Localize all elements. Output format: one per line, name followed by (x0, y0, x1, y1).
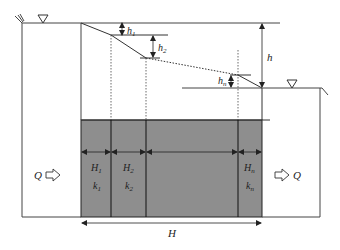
hydraulic-grade-line (81, 23, 262, 88)
flow-in: Q (34, 169, 60, 181)
flow-out-label: Q (293, 169, 301, 181)
soil-block (81, 120, 270, 217)
downstream-container (262, 88, 328, 217)
upstream-container (15, 14, 81, 217)
flow-in-label: Q (34, 169, 42, 181)
head-loss-1-dimension: h1 (122, 23, 136, 38)
head-loss-n-label: hn (218, 75, 227, 88)
water-level-downstream-icon (287, 80, 297, 88)
flow-arrow-in-icon (46, 169, 60, 181)
flow-arrow-out-icon (275, 169, 289, 181)
head-loss-1-label: h1 (127, 25, 136, 38)
total-head-dimension: h (262, 24, 273, 120)
total-length-label: H (167, 227, 177, 239)
total-length-dimension: H (82, 223, 261, 239)
head-loss-2-dimension: h2 (153, 36, 167, 57)
head-loss-2-label: h2 (158, 42, 167, 55)
head-loss-n-dimension: hn (218, 75, 231, 88)
water-level-upstream-icon (38, 15, 48, 23)
seepage-diagram: h1 h2 hn h H1 k1 H2 k2 Hn kn (0, 0, 340, 250)
flow-out: Q (275, 169, 301, 181)
total-head-label: h (267, 51, 273, 63)
soil-fill (81, 120, 262, 217)
